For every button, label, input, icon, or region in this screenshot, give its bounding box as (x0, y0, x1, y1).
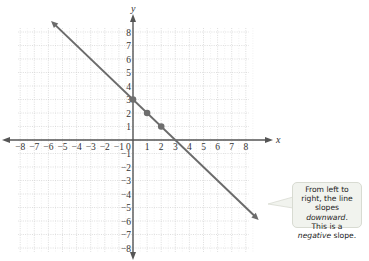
callout-line-4: This is a (295, 222, 359, 231)
callout-line-2: right, the line (295, 194, 359, 203)
callout-line-5: negative slope. (295, 231, 359, 240)
svg-text:−5: −5 (57, 142, 67, 152)
plot-line (51, 21, 259, 220)
svg-text:2: 2 (126, 109, 131, 119)
svg-text:3: 3 (173, 142, 178, 152)
svg-text:x: x (275, 134, 281, 145)
svg-text:−3: −3 (86, 142, 96, 152)
svg-text:−8: −8 (121, 244, 131, 254)
svg-text:1: 1 (145, 142, 150, 152)
svg-text:5: 5 (126, 68, 131, 78)
svg-text:−3: −3 (121, 176, 131, 186)
axes: xy (2, 3, 281, 260)
svg-text:−1: −1 (121, 149, 131, 159)
svg-text:−4: −4 (72, 142, 82, 152)
svg-text:−6: −6 (43, 142, 53, 152)
callout-line-3: slopes downward. (295, 203, 359, 221)
svg-text:7: 7 (229, 142, 234, 152)
svg-text:6: 6 (215, 142, 220, 152)
svg-text:−7: −7 (29, 142, 39, 152)
svg-text:7: 7 (126, 41, 131, 51)
svg-text:6: 6 (126, 55, 131, 65)
svg-text:1: 1 (126, 122, 131, 132)
svg-text:−2: −2 (121, 163, 131, 173)
data-point (158, 123, 165, 130)
data-point (130, 96, 137, 103)
svg-text:−7: −7 (121, 230, 131, 240)
data-point (144, 110, 151, 117)
svg-text:4: 4 (187, 142, 192, 152)
svg-text:−6: −6 (121, 217, 131, 227)
svg-text:−4: −4 (121, 190, 131, 200)
svg-text:−5: −5 (121, 203, 131, 213)
svg-text:5: 5 (201, 142, 206, 152)
svg-text:8: 8 (126, 28, 131, 38)
svg-text:y: y (130, 3, 136, 14)
slope-callout: From left to right, the line slopes down… (292, 182, 362, 228)
svg-text:4: 4 (126, 82, 131, 92)
callout-line-1: From left to (295, 185, 359, 194)
svg-text:8: 8 (243, 142, 248, 152)
svg-text:−8: −8 (15, 142, 25, 152)
svg-text:2: 2 (159, 142, 164, 152)
callout-pointer (268, 196, 294, 210)
svg-text:−2: −2 (100, 142, 110, 152)
